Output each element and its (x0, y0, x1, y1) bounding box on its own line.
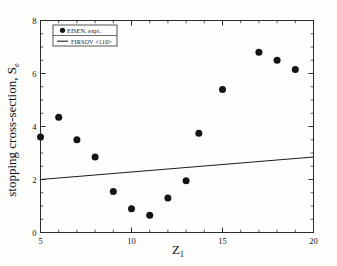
x-tick-label: 15 (218, 236, 227, 246)
figure-container: 510152002468 EISEN, expt. FIRSOV <110> s… (0, 0, 337, 266)
chart-background (0, 0, 337, 266)
data-point-marker (195, 130, 202, 137)
y-axis-title-subscript: e (11, 63, 21, 67)
data-point-marker (55, 114, 62, 121)
data-point-marker (110, 188, 117, 195)
y-axis-title: stopping cross-section, Se (4, 63, 21, 197)
data-point-marker (183, 177, 190, 184)
y-tick-label: 0 (32, 228, 36, 238)
data-point-marker (219, 86, 226, 93)
legend-marker-icon (60, 28, 65, 33)
x-tick-label: 20 (309, 236, 318, 246)
x-axis-title-subscript: 1 (180, 249, 184, 259)
legend-label-firsov: FIRSOV <110> (71, 38, 112, 45)
x-axis-title-base: Z (172, 242, 180, 257)
stopping-cross-section-chart: 510152002468 EISEN, expt. FIRSOV <110> s… (0, 0, 337, 266)
data-point-marker (292, 66, 299, 73)
x-tick-label: 5 (38, 236, 42, 246)
y-tick-label: 8 (32, 16, 36, 26)
y-tick-label: 6 (32, 69, 36, 79)
data-point-marker (37, 134, 44, 141)
chart-legend: EISEN, expt. FIRSOV <110> (53, 25, 117, 46)
data-point-marker (146, 212, 153, 219)
y-tick-label: 2 (32, 175, 36, 185)
data-point-marker (255, 49, 262, 56)
legend-label-eisen: EISEN, expt. (67, 27, 101, 34)
svg-text:stopping cross-section, Se: stopping cross-section, Se (4, 63, 21, 197)
y-axis-title-base: stopping cross-section, S (4, 67, 19, 197)
data-point-marker (73, 136, 80, 143)
data-point-marker (164, 195, 171, 202)
data-point-marker (274, 57, 281, 64)
data-point-marker (92, 153, 99, 160)
x-tick-label: 10 (127, 236, 136, 246)
data-point-marker (128, 205, 135, 212)
